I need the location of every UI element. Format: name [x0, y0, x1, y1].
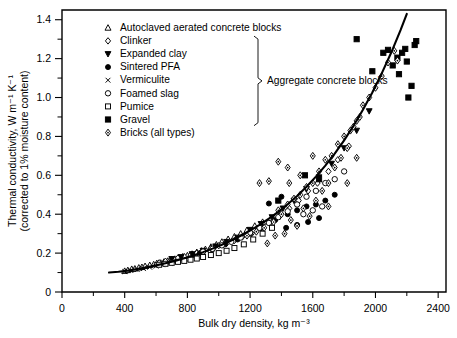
data-point-dot [273, 221, 275, 223]
data-point [251, 237, 256, 242]
legend-marker-icon [105, 91, 110, 96]
x-tick-label: 800 [179, 302, 197, 314]
y-axis-title: Thermal conductivity, W m⁻¹ K⁻¹ [6, 75, 18, 227]
legend-item-label: Sintered PFA [120, 61, 180, 72]
data-point-dot [337, 143, 339, 145]
data-point [270, 225, 275, 230]
legend-item-label: Bricks (all types) [120, 127, 195, 138]
y-tick-label: 1.4 [36, 13, 51, 25]
data-point-dot [277, 161, 279, 163]
legend-marker-icon [106, 65, 111, 70]
x-tick-label: 400 [116, 302, 134, 314]
data-point [306, 219, 311, 224]
data-point-dot [340, 157, 342, 159]
data-point [295, 208, 300, 213]
x-axis-title: Bulk dry density, kg m⁻³ [198, 317, 310, 329]
data-point [332, 192, 337, 197]
data-point [232, 246, 237, 251]
x-tick-label: 1600 [301, 302, 325, 314]
data-point-dot [290, 219, 292, 221]
data-point-dot [346, 147, 348, 149]
data-point-dot [288, 182, 290, 184]
legend-item-label: Foamed slag [120, 88, 179, 99]
data-point-dot [343, 136, 345, 138]
data-point [304, 194, 309, 199]
data-point [310, 208, 315, 213]
data-point-dot [312, 182, 314, 184]
data-point-dot [315, 200, 317, 202]
y-axis-subtitle: (corrected to 1% moisture content) [18, 70, 30, 231]
data-point [390, 63, 395, 68]
data-point [404, 59, 409, 64]
data-point [208, 253, 213, 258]
data-point [396, 72, 401, 77]
data-point-dot [397, 60, 399, 62]
data-point [414, 39, 419, 44]
legend-item-autoclaved-aerated-concrete-blocks[interactable]: Autoclaved aerated concrete blocks [105, 22, 281, 33]
data-point [332, 177, 337, 182]
y-tick-label: 1.0 [36, 91, 51, 103]
data-point-dot [287, 167, 289, 169]
data-point [216, 251, 221, 256]
data-point [241, 242, 246, 247]
data-point-dot [256, 231, 258, 233]
legend-item-label: Gravel [120, 114, 150, 125]
data-point-dot [334, 167, 336, 169]
data-point [285, 209, 290, 214]
x-tick-label: 1200 [238, 302, 262, 314]
data-point-dot [321, 190, 323, 192]
legend-item-label: Expanded clay [120, 48, 188, 59]
data-point-dot [309, 215, 311, 217]
data-point [341, 169, 346, 174]
legend-marker-icon-dot [107, 132, 109, 134]
data-point-dot [246, 235, 248, 237]
data-point [188, 257, 193, 262]
x-tick-label: 2000 [364, 302, 388, 314]
data-point [260, 231, 265, 236]
data-point-dot [328, 206, 330, 208]
data-point [294, 202, 299, 207]
data-point-dot [281, 213, 283, 215]
chart-container: 0400800120016002000240000.20.40.60.81.01… [0, 0, 457, 338]
y-tick-label: 0.6 [36, 169, 51, 181]
data-point [194, 256, 199, 261]
thermal-conductivity-scatter-chart: 0400800120016002000240000.20.40.60.81.01… [0, 0, 457, 338]
legend-group-label: Aggregate concrete blocks [267, 75, 388, 86]
data-point [224, 248, 229, 253]
data-point-dot [324, 159, 326, 161]
data-point-dot [312, 155, 314, 157]
data-point-dot [266, 243, 268, 245]
x-tick-label: 2400 [426, 302, 450, 314]
data-point [201, 254, 206, 259]
data-point-dot [263, 227, 265, 229]
data-point-dot [284, 233, 286, 235]
data-point [403, 46, 408, 51]
y-tick-label: 0.4 [36, 208, 51, 220]
data-point-dot [259, 182, 261, 184]
data-point [409, 83, 414, 88]
legend-item-label: Pumice [120, 101, 154, 112]
y-tick-label: 1.2 [36, 52, 51, 64]
data-point [313, 188, 318, 193]
data-point [370, 69, 375, 74]
legend-marker-icon [105, 117, 110, 122]
data-point [276, 198, 281, 203]
data-point-dot [274, 235, 276, 237]
data-point [266, 201, 271, 206]
data-point [354, 37, 359, 42]
data-point-dot [328, 182, 330, 184]
data-point-dot [303, 208, 305, 210]
data-point-dot [362, 104, 364, 106]
y-tick-label: 0.2 [36, 247, 51, 259]
y-tick-label: 0 [45, 286, 51, 298]
data-point-dot [296, 225, 298, 227]
y-tick-label: 0.8 [36, 130, 51, 142]
data-point-dot [268, 180, 270, 182]
legend-item-label: Vermiculite [120, 74, 170, 85]
legend-item-label: Clinker [120, 35, 152, 46]
data-point-dot [346, 182, 348, 184]
data-point [316, 177, 321, 182]
data-point-dot [356, 157, 358, 159]
data-point [317, 216, 322, 221]
data-point [406, 95, 411, 100]
